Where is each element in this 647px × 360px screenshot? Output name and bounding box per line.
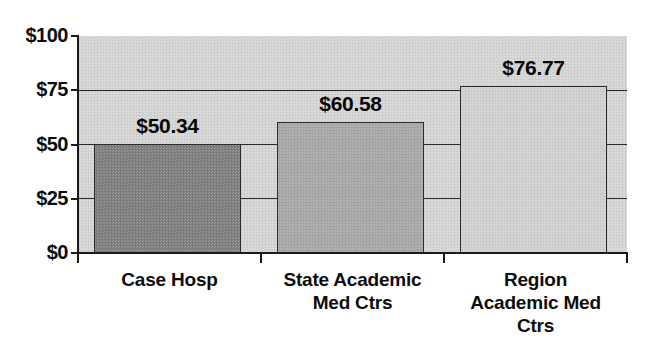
- data-label-3: $76.77: [460, 56, 606, 80]
- category-label-line: Region: [444, 268, 627, 291]
- bar-2: [277, 122, 423, 253]
- category-label-line: Ctrs: [444, 314, 627, 337]
- category-label-line: State Academic: [261, 268, 444, 291]
- y-tick-100: [71, 35, 78, 37]
- category-label-line: Med Ctrs: [261, 291, 444, 314]
- y-axis-label-wrap-100: $100: [0, 24, 68, 48]
- bar-1: [94, 144, 240, 253]
- data-label-1: $50.34: [94, 114, 240, 138]
- bar-3: [460, 86, 606, 253]
- x-tick-2: [443, 254, 445, 263]
- y-tick-25: [71, 198, 78, 200]
- y-axis-label-wrap-0: $0: [0, 241, 68, 265]
- x-axis-line: [77, 252, 628, 254]
- y-axis-label-0: $0: [0, 241, 68, 264]
- y-axis-label-75: $75: [0, 78, 68, 101]
- y-axis-label-50: $50: [0, 133, 68, 156]
- category-label-1: Case Hosp: [78, 268, 261, 291]
- bar-texture: [95, 145, 239, 252]
- x-tick-1: [260, 254, 262, 263]
- y-axis-label-wrap-25: $25: [0, 187, 68, 211]
- category-label-line: Academic Med: [444, 291, 627, 314]
- bar-texture: [278, 123, 422, 252]
- x-tick-0: [77, 254, 79, 263]
- bar-chart: $100$75$50$25$0 $50.34$60.58$76.77 Case …: [0, 0, 647, 360]
- category-label-2: State AcademicMed Ctrs: [261, 268, 444, 314]
- y-axis-label-25: $25: [0, 187, 68, 210]
- data-label-2: $60.58: [277, 92, 423, 116]
- bar-texture: [461, 87, 605, 252]
- x-tick-3: [626, 254, 628, 263]
- y-axis-label-100: $100: [0, 24, 68, 47]
- category-label-line: Case Hosp: [78, 268, 261, 291]
- y-tick-75: [71, 89, 78, 91]
- y-tick-50: [71, 144, 78, 146]
- category-label-3: RegionAcademic MedCtrs: [444, 268, 627, 337]
- y-axis-label-wrap-75: $75: [0, 78, 68, 102]
- y-axis-label-wrap-50: $50: [0, 133, 68, 157]
